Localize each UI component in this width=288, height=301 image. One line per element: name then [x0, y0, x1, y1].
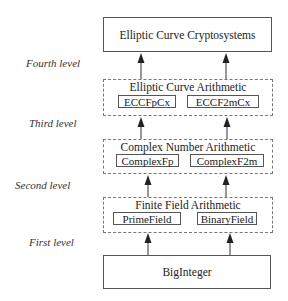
arrowhead-icon: [138, 53, 145, 63]
arrowhead-icon: [223, 175, 230, 185]
arrowhead-icon: [224, 117, 231, 127]
arrowhead-icon: [223, 53, 230, 63]
arrowhead-icon: [138, 117, 145, 127]
arrowhead-icon: [227, 233, 234, 243]
arrows-layer: [0, 0, 288, 301]
arrowhead-icon: [145, 233, 152, 243]
arrowhead-icon: [145, 175, 152, 185]
